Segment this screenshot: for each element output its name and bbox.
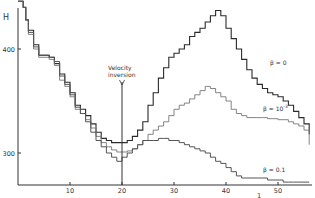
series-label-beta-1e-3: β = 10-3 xyxy=(263,104,288,113)
series-label-beta-0-1: β = 0.1 xyxy=(263,166,285,174)
y-tick-label: 400 xyxy=(3,46,15,54)
x-tick-label: 30 xyxy=(170,187,178,195)
x-tick-label: 40 xyxy=(222,187,230,195)
series-label-beta-0: β = 0 xyxy=(270,59,287,67)
velocity-label-line2: inversion xyxy=(108,71,136,78)
axis-note: 1 xyxy=(257,192,261,198)
y-tick-label: 300 xyxy=(3,150,15,158)
x-tick-label: 50 xyxy=(274,187,282,195)
step-line-chart: H 1020304050 300400 Velocity inversion β… xyxy=(0,0,315,198)
x-ticks: 1020304050 xyxy=(66,182,282,195)
series-group xyxy=(18,1,309,182)
x-tick-label: 20 xyxy=(118,187,126,195)
x-tick-label: 10 xyxy=(66,187,74,195)
series-line-2 xyxy=(18,1,309,182)
y-axis-label: H xyxy=(3,13,9,22)
